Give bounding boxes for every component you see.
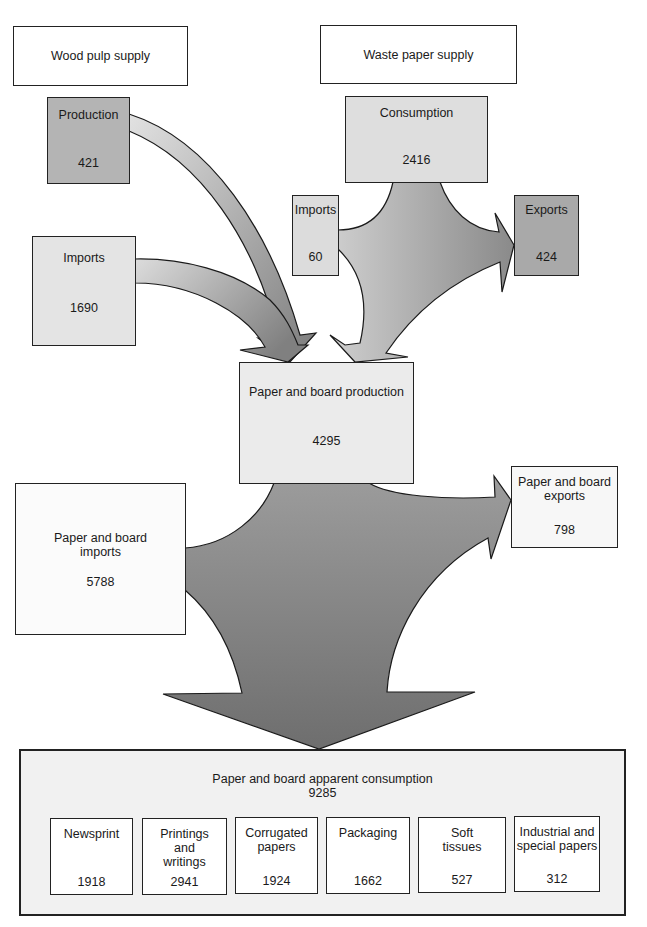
paper-board-imports-node: Paper and board imports 5788	[15, 483, 186, 635]
waste-paper-imports-node: Imports 60	[292, 195, 339, 276]
category-label-line1: Corrugated	[236, 826, 317, 840]
category-packaging: Packaging 1662	[326, 817, 410, 894]
category-label-line3: writings	[143, 855, 226, 869]
category-label-line2: special papers	[515, 839, 599, 853]
node-label-line1: Paper and board	[512, 475, 617, 489]
category-value: 312	[515, 872, 599, 886]
category-value: 527	[419, 873, 505, 887]
node-value: 5788	[16, 575, 185, 589]
wood-pulp-supply-header: Wood pulp supply	[13, 26, 188, 86]
node-label: Production	[48, 108, 129, 122]
node-label: Imports	[293, 203, 338, 217]
node-label: Imports	[33, 251, 135, 265]
paper-board-production-node: Paper and board production 4295	[239, 362, 414, 484]
flow-paper-board-hub	[163, 476, 511, 749]
category-newsprint: Newsprint 1918	[50, 818, 133, 895]
apparent-consumption-value: 9285	[21, 786, 624, 800]
wood-pulp-production-node: Production 421	[47, 97, 130, 184]
waste-paper-supply-header: Waste paper supply	[320, 25, 517, 84]
node-value: 798	[512, 523, 617, 537]
node-label-line1: Paper and board	[16, 531, 185, 545]
apparent-consumption-node: Paper and board apparent consumption 928…	[19, 749, 626, 916]
node-value: 60	[293, 250, 338, 264]
category-label-line1: Printings	[143, 827, 226, 841]
category-label: Packaging	[327, 826, 409, 840]
wood-pulp-supply-label: Wood pulp supply	[14, 49, 187, 63]
node-value: 421	[48, 156, 129, 170]
node-value: 424	[515, 250, 578, 264]
category-soft-tissues: Soft tissues 527	[418, 817, 506, 893]
node-value: 2416	[346, 153, 487, 167]
category-value: 1918	[51, 875, 132, 889]
flow-waste-paper-hub	[330, 182, 514, 362]
waste-paper-exports-node: Exports 424	[514, 195, 579, 276]
node-label: Exports	[515, 203, 578, 217]
waste-paper-consumption-node: Consumption 2416	[345, 96, 488, 183]
node-value: 4295	[240, 434, 413, 448]
category-value: 1662	[327, 874, 409, 888]
category-label-line1: Industrial and	[515, 825, 599, 839]
node-label: Paper and board production	[240, 385, 413, 399]
paper-board-exports-node: Paper and board exports 798	[511, 466, 618, 548]
node-value: 1690	[33, 301, 135, 315]
category-label-line2: tissues	[419, 840, 505, 854]
category-value: 1924	[236, 874, 317, 888]
node-label-line2: imports	[16, 545, 185, 559]
wood-pulp-imports-node: Imports 1690	[32, 236, 136, 346]
waste-paper-supply-label: Waste paper supply	[321, 48, 516, 62]
category-label-line2: papers	[236, 840, 317, 854]
apparent-consumption-label: Paper and board apparent consumption	[21, 772, 624, 786]
category-value: 2941	[143, 875, 226, 889]
node-label: Consumption	[346, 106, 487, 120]
category-label-line1: Soft	[419, 826, 505, 840]
category-label-line2: and	[143, 841, 226, 855]
category-corrugated-papers: Corrugated papers 1924	[235, 817, 318, 894]
node-label-line2: exports	[512, 489, 617, 503]
category-industrial-special: Industrial and special papers 312	[514, 816, 600, 892]
category-label: Newsprint	[51, 827, 132, 841]
category-printings-writings: Printings and writings 2941	[142, 818, 227, 895]
